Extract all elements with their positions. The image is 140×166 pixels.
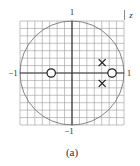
axis-label-right: 1 xyxy=(127,68,132,78)
figure-caption: (a) xyxy=(66,146,79,159)
zero-marker xyxy=(108,69,116,77)
axis-label-top: 1 xyxy=(70,7,75,17)
axis-label-bottom: −1 xyxy=(64,126,74,136)
pole-zero-plot: 1 −1 −1 1 z (a) xyxy=(0,0,140,166)
pole-marker xyxy=(99,59,106,66)
plane-label: z xyxy=(125,10,134,20)
zero-marker xyxy=(47,69,55,77)
plane-label-text: z xyxy=(128,10,133,20)
pole-marker xyxy=(99,80,106,87)
axis-label-left: −1 xyxy=(8,68,18,78)
